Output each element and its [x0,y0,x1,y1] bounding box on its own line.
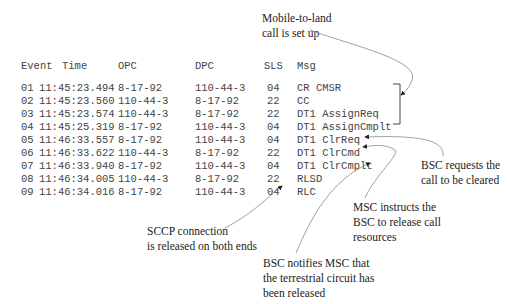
connector-overlay [0,0,507,304]
arrow-bsc-notifies [296,163,370,253]
arrow-msc-instructs [363,146,396,199]
arrow-sccp-released [225,186,282,228]
arrow-call-setup [310,30,413,95]
bracket [393,84,400,124]
arrow-bsc-requests [365,137,443,156]
